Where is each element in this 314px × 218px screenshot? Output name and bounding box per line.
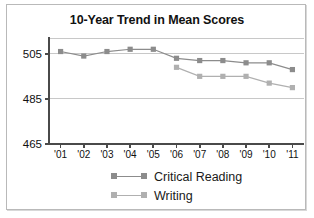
data-point-1-0 — [174, 65, 179, 70]
data-point-0-9 — [267, 60, 272, 65]
y-tick-label-465: 465 — [23, 138, 42, 150]
legend-marker-left-critical-reading — [111, 173, 117, 179]
data-point-0-8 — [243, 60, 248, 65]
x-tick-label-10: '11 — [286, 149, 299, 160]
x-tick-label-2: '03 — [100, 149, 113, 160]
data-point-0-1 — [81, 53, 86, 58]
x-tick-label-6: '07 — [193, 149, 206, 160]
data-point-1-5 — [290, 85, 295, 90]
data-point-1-1 — [197, 74, 202, 79]
x-tick-label-4: '05 — [147, 149, 160, 160]
x-tick-label-5: '06 — [170, 149, 183, 160]
data-point-0-10 — [290, 67, 295, 72]
x-tick-label-9: '10 — [263, 149, 276, 160]
data-point-1-4 — [267, 81, 272, 86]
data-point-0-2 — [104, 49, 109, 54]
data-point-0-3 — [128, 47, 133, 52]
chart-legend: Critical Reading Writing — [7, 167, 307, 205]
y-tick-label-485: 485 — [23, 93, 42, 105]
legend-swatch-writing — [111, 190, 147, 201]
data-point-1-3 — [243, 74, 248, 79]
data-point-0-7 — [220, 58, 225, 63]
legend-item-writing: Writing — [7, 186, 307, 205]
x-tick-label-7: '08 — [216, 149, 229, 160]
legend-swatch-critical-reading — [111, 171, 147, 182]
legend-label-writing: Writing — [154, 189, 193, 203]
chart-frame: 10-Year Trend in Mean Scores 465485505'0… — [6, 4, 306, 210]
data-point-1-2 — [220, 74, 225, 79]
legend-marker-left-writing — [111, 192, 117, 198]
x-tick-label-8: '09 — [240, 149, 253, 160]
legend-item-critical-reading: Critical Reading — [7, 167, 307, 186]
y-tick-label-505: 505 — [23, 48, 42, 60]
x-tick-label-1: '02 — [77, 149, 90, 160]
data-point-0-4 — [151, 47, 156, 52]
data-point-0-6 — [197, 58, 202, 63]
x-tick-label-0: '01 — [54, 149, 67, 160]
legend-marker-right-writing — [141, 192, 147, 198]
legend-label-critical-reading: Critical Reading — [154, 170, 242, 184]
legend-marker-right-critical-reading — [141, 173, 147, 179]
x-tick-label-3: '04 — [124, 149, 137, 160]
data-point-0-5 — [174, 56, 179, 61]
data-point-0-0 — [58, 49, 63, 54]
series-line-1 — [177, 67, 293, 87]
